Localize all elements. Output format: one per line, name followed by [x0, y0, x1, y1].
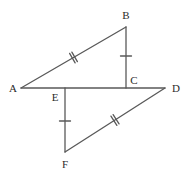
vertex-label-e: E	[52, 92, 59, 103]
tick-mark-ab-double-stroke	[70, 53, 76, 63]
vertex-label-c: C	[130, 75, 137, 86]
tick-marks-group	[60, 52, 132, 125]
geometry-figure: ABCDEF	[0, 0, 190, 175]
vertex-label-a: A	[9, 83, 17, 94]
tick-mark-fd-double-stroke	[111, 116, 117, 125]
segment-FD	[65, 88, 165, 152]
tick-mark-fd-double-stroke	[113, 115, 119, 124]
tick-mark-ab-double-stroke	[72, 52, 78, 62]
segments-group	[21, 27, 165, 152]
vertex-label-b: B	[122, 10, 129, 21]
vertex-label-d: D	[172, 83, 180, 94]
segment-AB	[21, 27, 126, 88]
vertex-label-f: F	[62, 159, 68, 170]
geometry-canvas	[0, 0, 190, 175]
